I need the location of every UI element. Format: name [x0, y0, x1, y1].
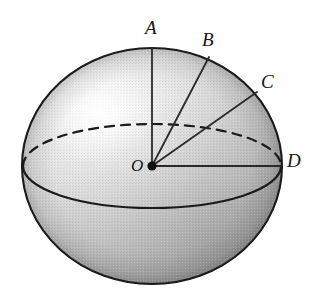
point-label-b: B	[202, 30, 214, 49]
point-label-a: A	[145, 18, 157, 37]
point-label-d: D	[287, 151, 301, 170]
center-label-o: O	[131, 157, 143, 174]
center-point-dot	[147, 161, 156, 170]
geometry-figure-sphere: A B C D O	[0, 0, 314, 295]
sphere-diagram-canvas	[0, 0, 314, 295]
point-label-c: C	[261, 72, 274, 91]
